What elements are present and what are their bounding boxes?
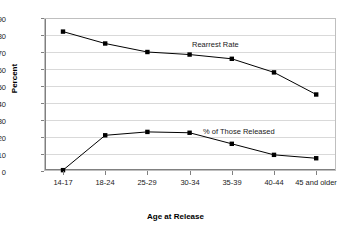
series-line	[63, 32, 316, 95]
x-tick-mark	[63, 171, 64, 175]
data-point-marker	[230, 142, 234, 146]
data-point-marker	[272, 70, 276, 74]
data-point-marker	[314, 92, 318, 96]
x-tick-mark	[147, 171, 148, 175]
x-tick-mark	[316, 171, 317, 175]
data-point-marker	[187, 52, 191, 56]
series-label-percent-released: % of Those Released	[203, 128, 275, 136]
x-axis-title: Age at Release	[0, 212, 351, 221]
data-point-marker	[272, 153, 276, 157]
data-point-marker	[103, 133, 107, 137]
series-layer	[0, 0, 351, 234]
series-line	[63, 132, 316, 170]
data-point-marker	[61, 29, 65, 33]
data-point-marker	[145, 130, 149, 134]
series-1	[61, 29, 319, 96]
data-point-marker	[187, 131, 191, 135]
series-label-rearrest-rate: Rearrest Rate	[192, 41, 239, 49]
x-tick-label: 45 and older	[292, 178, 340, 188]
x-tick-mark	[274, 171, 275, 175]
x-tick-mark	[232, 171, 233, 175]
x-tick-mark	[190, 171, 191, 175]
series-2	[61, 130, 319, 173]
data-point-marker	[230, 57, 234, 61]
x-tick-mark	[105, 171, 106, 175]
data-point-marker	[314, 156, 318, 160]
line-chart: Percent 90 80 70 60 50 40 30 20 10 0 Rea…	[0, 0, 351, 234]
data-point-marker	[103, 41, 107, 45]
data-point-marker	[145, 50, 149, 54]
